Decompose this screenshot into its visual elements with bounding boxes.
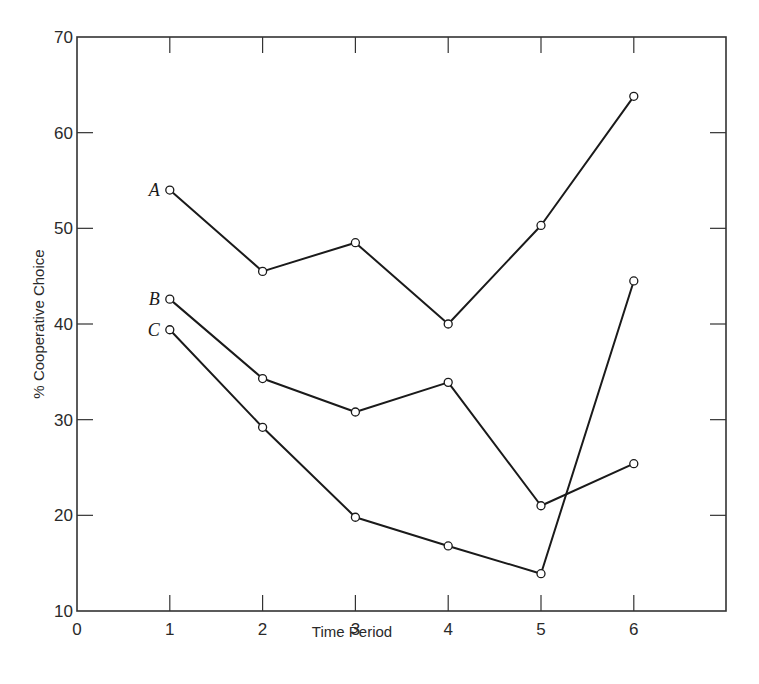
data-point-marker <box>630 277 638 285</box>
y-tick-label: 30 <box>54 411 73 430</box>
data-point-marker <box>537 570 545 578</box>
data-point-marker <box>166 326 174 334</box>
series-line <box>170 281 634 574</box>
series-c: C <box>148 277 638 578</box>
x-tick-label: 0 <box>72 620 81 639</box>
data-point-marker <box>444 378 452 386</box>
y-tick-labels: 10203040506070 <box>54 28 73 621</box>
data-point-marker <box>259 375 267 383</box>
x-tick-label: 4 <box>443 620 452 639</box>
y-tick-label: 60 <box>54 124 73 143</box>
y-axis-title: % Cooperative Choice <box>30 249 47 398</box>
data-point-marker <box>351 513 359 521</box>
data-point-marker <box>537 221 545 229</box>
line-chart: 10203040506070 0123456 Time Period % Coo… <box>0 0 759 684</box>
series-label: A <box>148 180 161 200</box>
plot-border <box>77 37 726 611</box>
data-point-marker <box>166 295 174 303</box>
data-point-marker <box>351 408 359 416</box>
series-label: B <box>149 289 160 309</box>
y-tick-label: 40 <box>54 315 73 334</box>
y-tick-label: 10 <box>54 602 73 621</box>
data-point-marker <box>444 320 452 328</box>
plot-frame <box>77 37 726 611</box>
x-tick-label: 6 <box>629 620 638 639</box>
x-axis-title: Time Period <box>312 623 392 640</box>
axis-ticks <box>77 37 726 611</box>
data-point-marker <box>351 239 359 247</box>
y-tick-label: 50 <box>54 219 73 238</box>
data-point-marker <box>166 186 174 194</box>
data-point-marker <box>630 92 638 100</box>
y-tick-label: 20 <box>54 506 73 525</box>
data-point-marker <box>259 423 267 431</box>
series-b: B <box>149 289 638 510</box>
data-point-marker <box>537 502 545 510</box>
data-series: ABC <box>148 92 638 577</box>
x-tick-label: 5 <box>536 620 545 639</box>
data-point-marker <box>630 460 638 468</box>
series-a: A <box>148 92 638 328</box>
series-label: C <box>148 320 161 340</box>
x-tick-label: 2 <box>258 620 267 639</box>
series-line <box>170 96 634 324</box>
x-tick-label: 1 <box>165 620 174 639</box>
data-point-marker <box>259 267 267 275</box>
data-point-marker <box>444 542 452 550</box>
y-tick-label: 70 <box>54 28 73 47</box>
